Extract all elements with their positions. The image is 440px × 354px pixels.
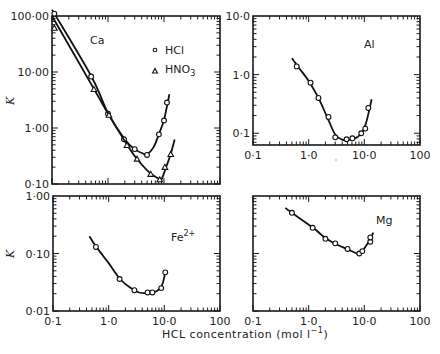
x-axis-label-sup: −1 bbox=[311, 326, 324, 335]
panel-title-al: Al bbox=[364, 38, 375, 51]
data-point bbox=[363, 126, 368, 131]
legend: HCl HNO3 bbox=[153, 44, 196, 78]
data-point bbox=[94, 245, 99, 250]
data-point-triangle bbox=[168, 151, 174, 156]
data-point bbox=[145, 290, 150, 295]
x-tick-label: 0·1 bbox=[244, 149, 262, 162]
x-tick-label: 100 bbox=[410, 149, 431, 162]
data-point bbox=[159, 286, 164, 291]
data-point bbox=[156, 132, 161, 137]
x-axis-label-end: ) bbox=[323, 328, 328, 341]
legend-label-hcl: HCl bbox=[165, 44, 184, 57]
data-point bbox=[360, 249, 365, 254]
data-point bbox=[52, 11, 57, 16]
x-tick-label: 10·0 bbox=[352, 315, 377, 328]
y-tick-label: 10·0 bbox=[226, 10, 251, 23]
figure: 100·0010·001·000·10 10·01·00·10·11·010·0… bbox=[0, 0, 440, 354]
x-tick-label: 100 bbox=[210, 315, 231, 328]
panel-al: 10·01·00·10·11·010·0100 bbox=[226, 10, 431, 162]
legend-marker-circle bbox=[153, 48, 157, 52]
series-line-hcl bbox=[292, 58, 372, 140]
x-tick-label: 100 bbox=[410, 315, 431, 328]
panel-ca: 100·0010·001·000·10 bbox=[11, 10, 221, 191]
x-axis-label-base: HCL concentration (mol l bbox=[162, 328, 311, 341]
x-tick-label: 0·1 bbox=[244, 315, 262, 328]
data-point bbox=[162, 118, 167, 123]
data-point bbox=[89, 74, 94, 79]
x-axis-label: HCL concentration (mol l−1) bbox=[162, 326, 328, 341]
panel-title-fe-sup: 2+ bbox=[184, 229, 196, 238]
panel-title-ca: Ca bbox=[90, 34, 104, 47]
data-point bbox=[333, 135, 338, 140]
legend-label-hno3: HNO3 bbox=[165, 63, 195, 78]
data-point bbox=[333, 241, 338, 246]
data-point bbox=[345, 247, 350, 252]
x-tick-label: 10·0 bbox=[352, 149, 377, 162]
data-point bbox=[359, 131, 364, 136]
x-tick-label: 1·0 bbox=[100, 315, 118, 328]
data-point bbox=[368, 235, 373, 240]
data-point bbox=[350, 136, 355, 141]
panel-mg: 0·11·010·0100 bbox=[244, 196, 430, 328]
y-tick-label: 100·00 bbox=[11, 10, 50, 23]
y-tick-label: 1·00 bbox=[25, 122, 50, 135]
data-point bbox=[165, 100, 170, 105]
x-tick-label: 0·1 bbox=[44, 315, 62, 328]
panel-title-fe-base: Fe bbox=[171, 231, 184, 244]
y-tick-label: 0·10 bbox=[26, 248, 51, 261]
y-axis-label-top: K bbox=[4, 96, 17, 106]
panel-fe: 1·000·100·010·11·010·0100 bbox=[26, 190, 231, 328]
x-tick-label: 1·0 bbox=[300, 149, 318, 162]
panel-frame bbox=[253, 196, 420, 311]
y-tick-label: 0·1 bbox=[233, 127, 251, 140]
panel-frame bbox=[253, 16, 420, 145]
panel-title-fe: Fe2+ bbox=[171, 229, 195, 244]
legend-marker-triangle bbox=[153, 69, 158, 74]
data-point bbox=[145, 153, 150, 158]
data-point bbox=[290, 210, 295, 215]
data-point bbox=[366, 106, 371, 111]
data-point bbox=[326, 114, 331, 119]
data-point bbox=[150, 290, 155, 295]
y-axis-label-bottom: K bbox=[4, 249, 17, 259]
data-point bbox=[132, 147, 137, 152]
x-tick-label: 10·0 bbox=[152, 315, 177, 328]
legend-label-hno3-sub: 3 bbox=[190, 69, 195, 78]
data-point bbox=[117, 277, 122, 282]
panel-frame bbox=[53, 196, 220, 311]
panel-title-mg: Mg bbox=[376, 214, 392, 227]
series-line-hcl bbox=[89, 236, 165, 293]
data-point bbox=[344, 137, 349, 142]
data-point bbox=[132, 288, 137, 293]
legend-label-hno3-base: HNO bbox=[165, 63, 191, 76]
data-point bbox=[316, 96, 321, 101]
stray-dot bbox=[335, 159, 337, 161]
data-point bbox=[310, 225, 315, 230]
series-line-hcl bbox=[52, 10, 169, 155]
y-tick-label: 1·00 bbox=[26, 190, 51, 203]
data-point bbox=[163, 270, 168, 275]
data-point bbox=[308, 80, 313, 85]
y-tick-label: 10·00 bbox=[18, 66, 50, 79]
y-tick-label: 1·0 bbox=[233, 69, 251, 82]
series-line-hcl bbox=[285, 208, 373, 254]
data-point bbox=[323, 236, 328, 241]
data-point bbox=[294, 64, 299, 69]
